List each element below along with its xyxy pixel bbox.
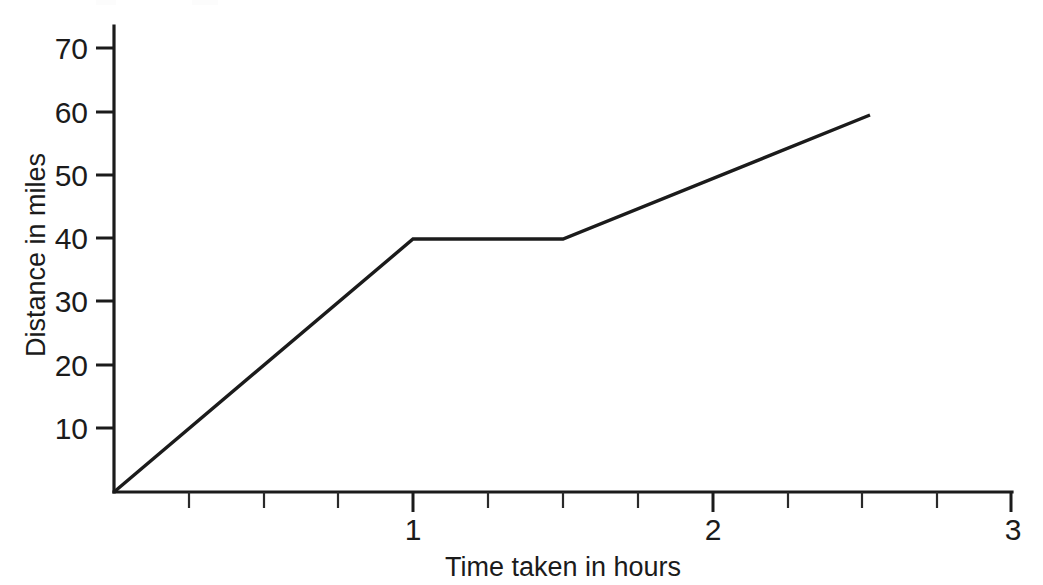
y-tick-label-50: 50 (55, 159, 88, 192)
y-tick-label-70: 70 (55, 32, 88, 65)
y-tick-label-60: 60 (55, 96, 88, 129)
x-tick-label-2: 2 (705, 513, 722, 546)
y-tick-label-20: 20 (55, 349, 88, 382)
x-tick-label-1: 1 (405, 513, 422, 546)
distance-time-line-chart: 70 60 50 40 30 20 10 1 2 3 Distance in m… (0, 0, 1043, 585)
y-tick-label-40: 40 (55, 222, 88, 255)
x-axis-title: Time taken in hours (445, 552, 681, 582)
y-axis-title: Distance in miles (21, 153, 51, 357)
x-tick-label-3: 3 (1005, 513, 1022, 546)
y-tick-label-10: 10 (55, 412, 88, 445)
y-tick-label-30: 30 (55, 285, 88, 318)
chart-page: 70 60 50 40 30 20 10 1 2 3 Distance in m… (0, 0, 1043, 585)
journey-line-series (114, 115, 870, 492)
